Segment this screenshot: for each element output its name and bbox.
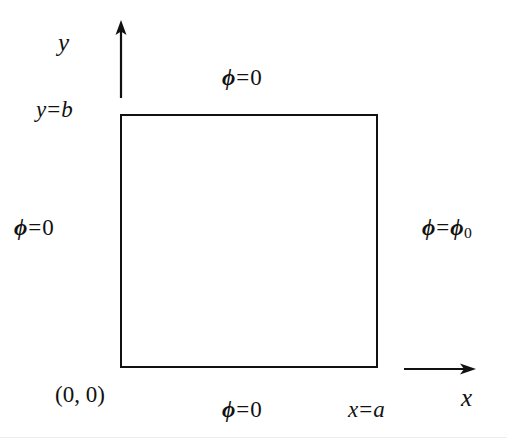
equals-sign: = <box>235 397 250 422</box>
phi-symbol: ϕ <box>422 215 435 240</box>
x-axis-label: x <box>461 385 472 410</box>
equals-sign: = <box>27 215 42 240</box>
phi-value: 0 <box>250 65 262 90</box>
figure-canvas: y x y=b x=a (0, 0) ϕ=0 ϕ=0 ϕ=ϕ0 ϕ=0 <box>0 0 507 445</box>
y-axis-arrow <box>106 16 138 100</box>
domain-rectangle <box>120 114 378 368</box>
b-value: b <box>61 97 73 122</box>
boundary-condition-top: ϕ=0 <box>222 66 262 89</box>
phi-symbol: ϕ <box>14 215 27 240</box>
phi-symbol: ϕ <box>222 397 235 422</box>
y-variable: y <box>36 97 46 122</box>
x-equals-a-label: x=a <box>348 398 385 421</box>
phi-value: 0 <box>250 397 262 422</box>
phi-subscript: 0 <box>464 224 472 241</box>
a-value: a <box>373 397 385 422</box>
phi-symbol: ϕ <box>222 65 235 90</box>
scan-artifact-line <box>0 437 507 438</box>
boundary-condition-left: ϕ=0 <box>14 216 54 239</box>
boundary-condition-right: ϕ=ϕ0 <box>422 216 472 241</box>
equals-sign: = <box>46 97 61 122</box>
phi-value: 0 <box>42 215 54 240</box>
y-axis-label: y <box>58 30 69 55</box>
phi-value: ϕ <box>450 215 463 240</box>
x-axis-arrow <box>400 356 484 384</box>
origin-label: (0, 0) <box>55 383 105 406</box>
equals-sign: = <box>358 397 373 422</box>
equals-sign: = <box>435 215 450 240</box>
x-variable: x <box>348 397 358 422</box>
boundary-condition-bottom: ϕ=0 <box>222 398 262 421</box>
equals-sign: = <box>235 65 250 90</box>
y-equals-b-label: y=b <box>36 98 73 121</box>
